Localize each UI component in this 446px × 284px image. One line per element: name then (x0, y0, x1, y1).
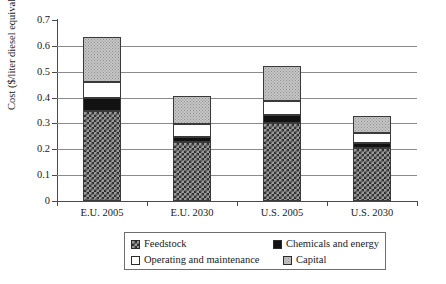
x-axis-tick-label: E.U. 2030 (171, 207, 214, 218)
bar-segment-feedstock (83, 111, 121, 202)
y-axis-tick (52, 98, 57, 99)
legend-label: Capital (296, 255, 326, 266)
stacked-bar (263, 66, 301, 201)
bar-segment-chemicals-and-energy (353, 143, 391, 148)
bar-segment-capital (83, 37, 121, 82)
bar-segment-chemicals-and-energy (173, 137, 211, 142)
legend-label: Feedstock (144, 239, 187, 250)
legend-label: Operating and maintenance (144, 255, 259, 266)
chemicals-and-energy-swatch-icon (273, 240, 282, 249)
legend-item-chemicals-and-energy: Chemicals and energy (273, 239, 379, 250)
bar-segment-feedstock (353, 148, 391, 201)
y-axis-title: Cost ($/liter diesel equivalent) (6, 0, 17, 110)
bar-segment-capital (263, 66, 301, 101)
bar-segment-operating-and-maintenance (83, 82, 121, 98)
x-axis-tick (417, 201, 418, 206)
y-axis-tick-label: 0.5 (37, 66, 50, 77)
bar-segment-operating-and-maintenance (353, 133, 391, 143)
legend-item-operating-and-maintenance: Operating and maintenance (131, 255, 283, 266)
y-axis-tick-label: 0.2 (37, 144, 50, 155)
legend-item-capital: Capital (283, 255, 326, 266)
y-axis-tick-label: 0.7 (37, 15, 50, 26)
x-axis-tick-label: E.U. 2005 (81, 207, 124, 218)
x-axis-tick (147, 201, 148, 206)
operating-and-maintenance-swatch-icon (131, 256, 140, 265)
bar-segment-operating-and-maintenance (263, 101, 301, 115)
x-axis-tick (327, 201, 328, 206)
bar-segment-feedstock (263, 123, 301, 201)
x-axis-tick-label: U.S. 2030 (351, 207, 393, 218)
legend-row: Feedstock Chemicals and energy (131, 236, 379, 252)
legend-label: Chemicals and energy (286, 239, 379, 250)
bar-segment-capital (353, 116, 391, 133)
y-axis-tick-label: 0 (45, 196, 50, 207)
capital-swatch-icon (283, 256, 292, 265)
bar-segment-chemicals-and-energy (83, 98, 121, 111)
bar-segment-capital (173, 96, 211, 124)
bar-segment-feedstock (173, 142, 211, 201)
y-axis-tick (52, 149, 57, 150)
y-axis-tick-label: 0.4 (37, 92, 50, 103)
stacked-bar (173, 96, 211, 201)
bar-segment-chemicals-and-energy (263, 115, 301, 123)
y-axis-tick-label: 0.6 (37, 41, 50, 52)
y-axis-tick-label: 0.1 (37, 170, 50, 181)
x-axis-tick-label: U.S. 2005 (261, 207, 303, 218)
y-axis-tick (52, 20, 57, 21)
y-axis-tick (52, 46, 57, 47)
chart-figure: Cost ($/liter diesel equivalent) 0.70.60… (0, 0, 446, 284)
x-axis-tick (237, 201, 238, 206)
legend-item-feedstock: Feedstock (131, 239, 273, 250)
legend-row: Operating and maintenance Capital (131, 252, 379, 268)
feedstock-swatch-icon (131, 240, 140, 249)
y-axis-tick (52, 72, 57, 73)
stacked-bar (353, 116, 391, 201)
y-axis-tick (52, 175, 57, 176)
plot-area: 0.70.60.50.40.30.20.10 (57, 20, 417, 201)
x-axis-tick (57, 201, 58, 206)
stacked-bar (83, 37, 121, 201)
y-axis-tick (52, 123, 57, 124)
bar-segment-operating-and-maintenance (173, 124, 211, 138)
chart-legend: Feedstock Chemicals and energy Operating… (124, 232, 386, 270)
y-axis-tick-label: 0.3 (37, 118, 50, 129)
